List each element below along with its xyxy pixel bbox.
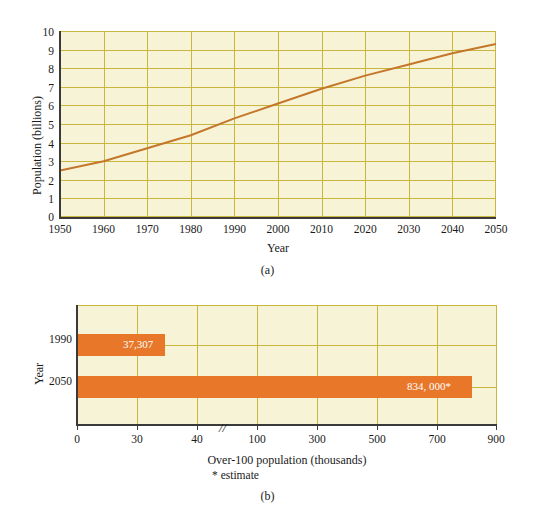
chart-a-ytick-2: 2 bbox=[26, 176, 54, 188]
chart-a-xtick-2050: 2050 bbox=[475, 224, 517, 236]
chart-a-x-axis-spine bbox=[59, 217, 496, 219]
chart-b-top-edge bbox=[77, 305, 497, 306]
chart-b-tickmark-30 bbox=[137, 426, 138, 430]
chart-a-xtick-2020: 2020 bbox=[344, 224, 386, 236]
chart-b-tickmark-0 bbox=[77, 426, 78, 430]
chart-b-gridline-x-40 bbox=[197, 305, 198, 424]
chart-a-ytick-0: 0 bbox=[26, 212, 54, 224]
chart-b-y-axis-spine bbox=[76, 305, 78, 425]
chart-a-ytick-6: 6 bbox=[26, 101, 54, 113]
chart-a-xtick-1970: 1970 bbox=[126, 224, 168, 236]
chart-a-xtick-2010: 2010 bbox=[301, 224, 343, 236]
chart-b-right-edge bbox=[496, 305, 497, 424]
chart-a-x-axis-title: Year bbox=[60, 241, 496, 256]
chart-b-xtick-700: 700 bbox=[417, 434, 457, 446]
chart-a-plot-area bbox=[60, 31, 496, 217]
chart-a-ytick-9: 9 bbox=[26, 46, 54, 58]
chart-b-xtick-900: 900 bbox=[476, 434, 516, 446]
chart-a-population-curve bbox=[60, 31, 496, 217]
chart-a-ytick-10: 10 bbox=[26, 27, 54, 39]
chart-a-y-axis-spine bbox=[59, 31, 61, 218]
bar-1990-value-label: 37,307 bbox=[123, 339, 153, 350]
chart-a-xtick-1980: 1980 bbox=[170, 224, 212, 236]
chart-a-xtick-1950: 1950 bbox=[39, 224, 81, 236]
chart-a-ytick-3: 3 bbox=[26, 157, 54, 169]
chart-b-ytick-2050: 2050 bbox=[40, 376, 72, 388]
chart-a-xtick-2030: 2030 bbox=[388, 224, 430, 236]
chart-b-xtick-40: 40 bbox=[177, 434, 217, 446]
chart-b-gridline-x-700 bbox=[437, 305, 438, 424]
chart-a-ytick-4: 4 bbox=[26, 139, 54, 151]
chart-b-tickmark-500 bbox=[377, 426, 378, 430]
panel-a-caption: (a) bbox=[0, 263, 535, 278]
x-axis-break-icon: // bbox=[219, 421, 226, 434]
chart-b-plot-area: 37,307 834, 000* bbox=[77, 305, 497, 424]
chart-b-x-axis-spine bbox=[76, 424, 497, 426]
chart-b-gridline-x-500 bbox=[377, 305, 378, 424]
chart-b-xtick-100: 100 bbox=[237, 434, 277, 446]
chart-a-xtick-2000: 2000 bbox=[257, 224, 299, 236]
chart-b-xtick-30: 30 bbox=[117, 434, 157, 446]
chart-b-gridline-x-30 bbox=[137, 305, 138, 424]
chart-b-tickmark-300 bbox=[317, 426, 318, 430]
panel-b-caption: (b) bbox=[0, 489, 535, 504]
chart-b-tickmark-100 bbox=[257, 426, 258, 430]
chart-b-x-axis-title: Over-100 population (thousands) bbox=[77, 453, 497, 468]
chart-a-ytick-8: 8 bbox=[26, 64, 54, 76]
chart-b-gridline-x-100 bbox=[257, 305, 258, 424]
figure-container: Population (billions) bbox=[0, 0, 535, 507]
chart-a-xtick-2040: 2040 bbox=[431, 224, 473, 236]
chart-b-footnote: * estimate bbox=[212, 469, 259, 481]
chart-a-xtick-1960: 1960 bbox=[83, 224, 125, 236]
chart-b-xtick-0: 0 bbox=[57, 434, 97, 446]
chart-b-xtick-500: 500 bbox=[357, 434, 397, 446]
bar-2050-value-label: 834, 000* bbox=[407, 381, 451, 392]
chart-b-ytick-1990: 1990 bbox=[40, 334, 72, 346]
chart-b-tickmark-900 bbox=[496, 426, 497, 430]
chart-b-gridline-x-300 bbox=[317, 305, 318, 424]
chart-a-xtick-1990: 1990 bbox=[213, 224, 255, 236]
chart-b-tickmark-40 bbox=[197, 426, 198, 430]
chart-a-ytick-1: 1 bbox=[26, 194, 54, 206]
chart-a-ytick-5: 5 bbox=[26, 120, 54, 132]
chart-b-xtick-300: 300 bbox=[297, 434, 337, 446]
chart-b-tickmark-700 bbox=[437, 426, 438, 430]
chart-a-ytick-7: 7 bbox=[26, 83, 54, 95]
